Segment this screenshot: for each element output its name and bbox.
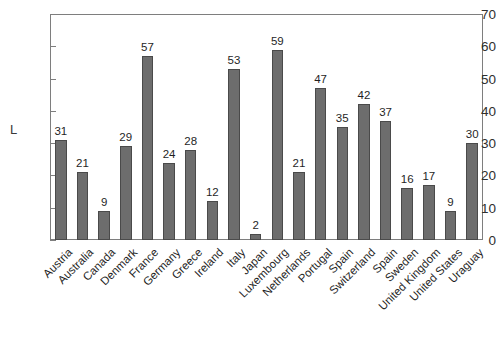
x-axis-category-label: United Kingdom: [434, 246, 442, 254]
x-axis-category-label: Sweden: [412, 246, 420, 254]
x-axis-category-label: Spain: [347, 246, 355, 254]
x-axis-category-label: Uraguay: [477, 246, 485, 254]
x-axis-category-label: Japan: [261, 246, 269, 254]
x-axis-category-label: Denmark: [131, 246, 139, 254]
x-axis-category-label: Italy: [239, 246, 247, 254]
x-axis-labels: AustriaAustraliaCanadaDenmarkFranceGerma…: [0, 0, 496, 347]
x-axis-category-label: Canada: [109, 246, 117, 254]
x-axis-category-label: Ireland: [217, 246, 225, 254]
x-axis-category-label: United States: [456, 246, 464, 254]
x-axis-category-label: Portugal: [326, 246, 334, 254]
x-axis-category-label: Netherlands: [304, 246, 312, 254]
bar-chart: L 010203040506070 3121929572428125325921…: [0, 0, 496, 347]
x-axis-category-label: France: [152, 246, 160, 254]
x-axis-category-label: Spain: [391, 246, 399, 254]
x-axis-category-label: Luxembourg: [282, 246, 290, 254]
x-axis-category-label: Austria: [66, 246, 74, 254]
x-axis-category-label: Germany: [174, 246, 182, 254]
x-axis-category-label: Switzerland: [369, 246, 377, 254]
x-axis-category-label: Australia: [87, 246, 95, 254]
x-axis-category-label: Greece: [196, 246, 204, 254]
